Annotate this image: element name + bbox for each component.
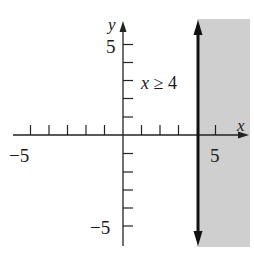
x-tick-label-neg5: −5 — [9, 145, 29, 166]
x-tick-label-5: 5 — [210, 145, 220, 166]
inequality-variable: x — [140, 73, 149, 93]
inequality-relation: ≥ 4 — [149, 73, 177, 93]
x-axis-label: x — [236, 116, 245, 135]
y-tick-label-neg5: −5 — [90, 217, 110, 238]
y-axis-label: y — [106, 15, 116, 34]
y-axis-arrow-icon — [120, 21, 127, 32]
y-tick-label-5: 5 — [106, 36, 116, 57]
inequality-label: x ≥ 4 — [140, 73, 177, 93]
inequality-graph: −5 5 5 −5 y x x ≥ 4 — [0, 0, 254, 256]
